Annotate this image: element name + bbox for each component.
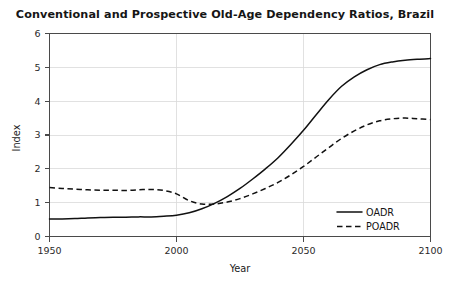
y-tick-label: 2 <box>34 163 40 174</box>
x-tick-label: 1950 <box>37 245 61 256</box>
x-tick-label: 2050 <box>291 245 315 256</box>
data-series-group <box>50 59 431 219</box>
series-line-poadr <box>50 118 431 204</box>
y-axis-title: Index <box>11 124 22 151</box>
x-axis-title: Year <box>229 263 252 274</box>
y-tick-label: 0 <box>34 231 40 242</box>
plot-svg: 0123456 1950200020502100 Index Year OADR… <box>0 0 450 281</box>
chart-figure: Conventional and Prospective Old-Age Dep… <box>0 0 450 281</box>
legend-label-oadr: OADR <box>366 207 394 218</box>
y-tick-label: 3 <box>34 129 40 140</box>
x-axis-ticks: 1950200020502100 <box>37 237 442 256</box>
chart-legend: OADRPOADR <box>337 207 400 233</box>
y-tick-label: 6 <box>34 28 40 39</box>
y-axis-ticks: 0123456 <box>34 28 49 242</box>
y-tick-label: 1 <box>34 197 40 208</box>
legend-label-poadr: POADR <box>366 221 400 232</box>
y-tick-label: 5 <box>34 62 40 73</box>
x-tick-label: 2100 <box>418 245 442 256</box>
series-line-oadr <box>50 59 431 219</box>
x-tick-label: 2000 <box>164 245 188 256</box>
y-tick-label: 4 <box>34 96 40 107</box>
